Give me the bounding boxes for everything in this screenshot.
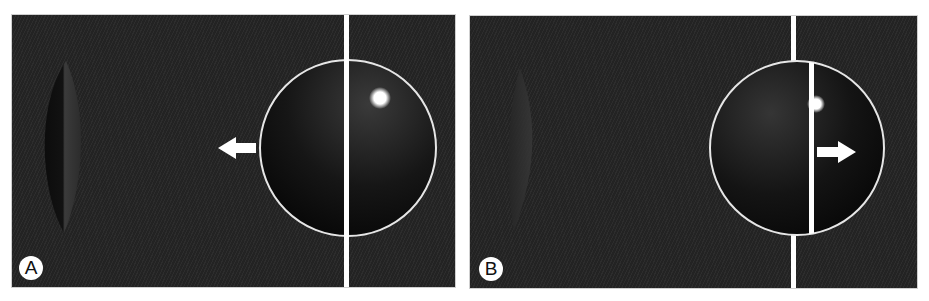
- vertical-line: [344, 15, 349, 287]
- panel-a: A: [12, 15, 455, 287]
- lens-shape: [509, 68, 533, 231]
- panel-a-graphic: [12, 15, 455, 287]
- panel-b-graphic: [470, 16, 917, 288]
- lens-shape: [45, 61, 81, 233]
- panel-label-a: A: [19, 256, 43, 280]
- sphere-circle: [710, 61, 884, 235]
- glow-spot: [807, 95, 825, 113]
- panel-b: B: [470, 16, 917, 288]
- displaced-line: [809, 62, 814, 234]
- arrow-left-icon: [218, 137, 256, 159]
- panel-label-b: B: [479, 257, 503, 281]
- glow-spot: [369, 87, 391, 109]
